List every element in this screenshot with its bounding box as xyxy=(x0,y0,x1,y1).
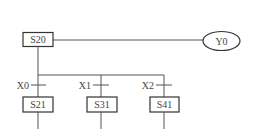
output-label-y0: Y0 xyxy=(215,36,227,47)
step-label-s21: S21 xyxy=(30,99,46,110)
sfc-diagram: S20 Y0 X0 S21 X1 S31 X2 S41 xyxy=(0,0,254,138)
transition-label-x2: X2 xyxy=(142,80,154,91)
step-label-s31: S31 xyxy=(94,99,110,110)
transition-label-x1: X1 xyxy=(79,80,91,91)
step-label-s20: S20 xyxy=(30,34,46,45)
transition-label-x0: X0 xyxy=(17,80,29,91)
step-label-s41: S41 xyxy=(157,99,173,110)
